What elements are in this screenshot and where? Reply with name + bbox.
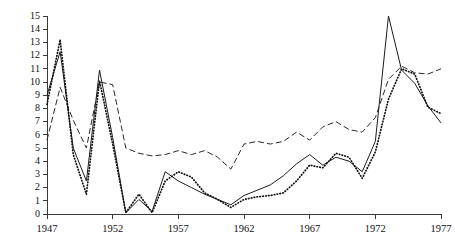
x-tick-label: 1967 — [299, 223, 320, 234]
y-tick-label: 5 — [35, 142, 40, 153]
x-tick-label: 1952 — [102, 223, 123, 234]
x-axis: 1947195219571962196719721977 — [37, 214, 452, 234]
y-tick-label: 15 — [30, 10, 40, 21]
series-layer — [47, 16, 441, 213]
y-tick-label: 6 — [35, 129, 40, 140]
y-tick-label: 14 — [30, 23, 40, 34]
x-tick-label: 1947 — [37, 223, 58, 234]
x-tick-label: 1957 — [168, 223, 189, 234]
y-tick-label: 3 — [35, 168, 40, 179]
y-tick-label: 10 — [30, 76, 40, 87]
y-tick-label: 7 — [35, 115, 40, 126]
y-tick-label: 0 — [35, 208, 40, 219]
y-tick-label: 1 — [35, 195, 40, 206]
y-tick-label: 11 — [30, 63, 40, 74]
y-tick-label: 13 — [30, 36, 40, 47]
y-tick-label: 2 — [35, 181, 40, 192]
y-axis: 0123456789101112131415 — [30, 10, 47, 219]
y-tick-label: 12 — [30, 49, 40, 60]
line-chart: 0123456789101112131415 19471952195719621… — [0, 0, 455, 250]
y-tick-label: 4 — [35, 155, 40, 166]
x-tick-label: 1972 — [365, 223, 386, 234]
x-tick-label: 1962 — [234, 223, 255, 234]
y-tick-label: 9 — [35, 89, 40, 100]
series-dotted — [47, 40, 441, 213]
x-tick-label: 1977 — [431, 223, 452, 234]
y-tick-label: 8 — [35, 102, 40, 113]
chart-canvas: 0123456789101112131415 19471952195719621… — [0, 0, 455, 250]
